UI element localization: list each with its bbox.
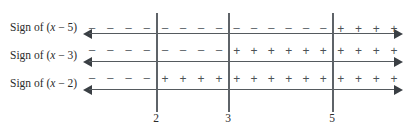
- minus-sign-icon: −: [141, 45, 153, 57]
- minus-sign-icon: −: [283, 23, 295, 35]
- plus-sign-icon: +: [335, 23, 347, 35]
- plus-sign-icon: +: [370, 73, 382, 85]
- plus-sign-icon: +: [317, 73, 329, 85]
- plus-sign-icon: +: [265, 73, 277, 85]
- plus-sign-icon: +: [388, 45, 400, 57]
- tick-label-3: 3: [218, 113, 238, 125]
- axis-shaft: [89, 61, 397, 62]
- minus-sign-icon: −: [104, 73, 116, 85]
- plus-sign-icon: +: [317, 45, 329, 57]
- right-arrowhead-icon: [394, 57, 403, 67]
- minus-sign-icon: −: [177, 23, 189, 35]
- minus-sign-icon: −: [213, 23, 225, 35]
- plus-sign-icon: +: [300, 73, 312, 85]
- minus-sign-icon: −: [177, 45, 189, 57]
- plus-sign-icon: +: [195, 73, 207, 85]
- right-arrowhead-icon: [394, 85, 403, 95]
- minus-sign-icon: −: [86, 73, 98, 85]
- minus-sign-icon: −: [104, 23, 116, 35]
- minus-sign-icon: −: [159, 23, 171, 35]
- plus-sign-icon: +: [335, 45, 347, 57]
- minus-sign-icon: −: [248, 23, 260, 35]
- sign-strip-x-2: −−−−++++++++++++++: [0, 73, 414, 85]
- plus-sign-icon: +: [353, 73, 365, 85]
- minus-sign-icon: −: [231, 23, 243, 35]
- plus-sign-icon: +: [283, 73, 295, 85]
- plus-sign-icon: +: [213, 73, 225, 85]
- plus-sign-icon: +: [159, 73, 171, 85]
- axis-shaft: [89, 89, 397, 90]
- minus-sign-icon: −: [104, 45, 116, 57]
- minus-sign-icon: −: [195, 23, 207, 35]
- tick-label-5: 5: [322, 113, 342, 125]
- sign-strip-x-3: −−−−−−−−++++++++++: [0, 45, 414, 57]
- sign-strip-x-5: −−−−−−−−−−−−−−++++: [0, 23, 414, 35]
- plus-sign-icon: +: [231, 73, 243, 85]
- plus-sign-icon: +: [353, 23, 365, 35]
- sign-chart-figure: Sign of (x − 5) Sign of (x − 3) Sign of …: [0, 0, 414, 139]
- minus-sign-icon: −: [300, 23, 312, 35]
- plus-sign-icon: +: [300, 45, 312, 57]
- minus-sign-icon: −: [317, 23, 329, 35]
- plus-sign-icon: +: [248, 73, 260, 85]
- plus-sign-icon: +: [388, 73, 400, 85]
- plus-sign-icon: +: [248, 45, 260, 57]
- plus-sign-icon: +: [265, 45, 277, 57]
- minus-sign-icon: −: [141, 73, 153, 85]
- minus-sign-icon: −: [213, 45, 225, 57]
- minus-sign-icon: −: [195, 45, 207, 57]
- plus-sign-icon: +: [370, 45, 382, 57]
- plus-sign-icon: +: [370, 23, 382, 35]
- minus-sign-icon: −: [86, 23, 98, 35]
- plus-sign-icon: +: [283, 45, 295, 57]
- minus-sign-icon: −: [265, 23, 277, 35]
- minus-sign-icon: −: [123, 23, 135, 35]
- minus-sign-icon: −: [141, 23, 153, 35]
- plus-sign-icon: +: [388, 23, 400, 35]
- plus-sign-icon: +: [335, 73, 347, 85]
- minus-sign-icon: −: [123, 73, 135, 85]
- plus-sign-icon: +: [353, 45, 365, 57]
- plus-sign-icon: +: [231, 45, 243, 57]
- minus-sign-icon: −: [123, 45, 135, 57]
- tick-label-2: 2: [146, 113, 166, 125]
- minus-sign-icon: −: [86, 45, 98, 57]
- plus-sign-icon: +: [177, 73, 189, 85]
- minus-sign-icon: −: [159, 45, 171, 57]
